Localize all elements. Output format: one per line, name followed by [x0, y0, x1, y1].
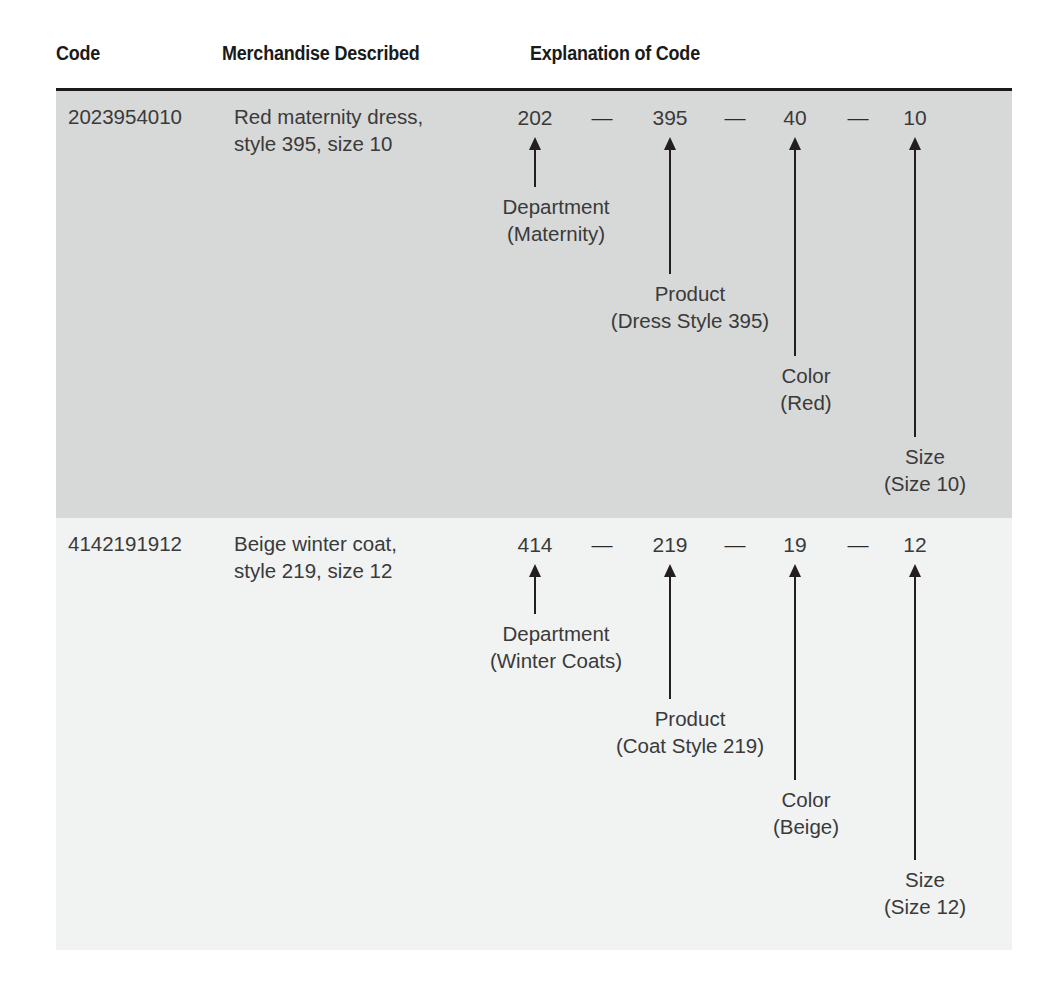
cell-merchandise-described: Red maternity dress, style 395, size 10 [234, 103, 423, 157]
callout-arrow-up-icon [909, 137, 922, 437]
callout-arrow-up-icon [789, 137, 802, 356]
segment-annotation-label: Product [611, 280, 769, 307]
callout-arrow-up-icon [664, 564, 677, 699]
segment-annotation: Color(Red) [780, 362, 831, 416]
segment-annotation-label: Product [616, 705, 764, 732]
segment-annotation-detail: (Maternity) [502, 220, 609, 247]
cell-code: 2023954010 [68, 103, 182, 130]
callout-arrow-up-icon [789, 564, 802, 780]
segment-annotation: Product(Coat Style 219) [616, 705, 764, 759]
segment-annotation-detail: (Size 10) [884, 470, 966, 497]
arrow-shaft [914, 572, 916, 860]
arrow-shaft [914, 145, 916, 437]
arrow-shaft [669, 572, 671, 699]
code-segment-separator: — [582, 530, 622, 560]
segment-annotation: Department(Winter Coats) [490, 620, 622, 674]
segment-annotation-detail: (Dress Style 395) [611, 307, 769, 334]
segment-annotation: Color(Beige) [773, 786, 839, 840]
segment-annotation: Size(Size 12) [884, 866, 966, 920]
segment-annotation-label: Size [884, 443, 966, 470]
table-header-row: Code Merchandise Described Explanation o… [56, 42, 1012, 80]
segment-annotation-label: Color [780, 362, 831, 389]
code-segment-value: 414 [495, 530, 575, 560]
code-segment-value: 19 [755, 530, 835, 560]
cell-merchandise-described: Beige winter coat, style 219, size 12 [234, 530, 397, 584]
code-segment-value: 202 [495, 103, 575, 133]
segment-annotation-label: Size [884, 866, 966, 893]
segment-annotation: Department(Maternity) [502, 193, 609, 247]
column-header-explanation-of-code: Explanation of Code [530, 42, 700, 65]
segment-annotation-detail: (Red) [780, 389, 831, 416]
code-explanation-figure: Code Merchandise Described Explanation o… [0, 0, 1051, 983]
column-header-code: Code [56, 42, 100, 65]
segment-annotation-detail: (Winter Coats) [490, 647, 622, 674]
arrow-shaft [534, 145, 536, 187]
segment-annotation-label: Department [490, 620, 622, 647]
code-segment-separator: — [715, 530, 755, 560]
arrow-shaft [669, 145, 671, 274]
arrow-shaft [794, 145, 796, 356]
callout-arrow-up-icon [529, 564, 542, 614]
code-segment-value: 395 [630, 103, 710, 133]
code-segment-separator: — [838, 530, 878, 560]
code-segment-separator: — [838, 103, 878, 133]
header-rule [56, 88, 1012, 91]
code-segment-separator: — [582, 103, 622, 133]
cell-code: 4142191912 [68, 530, 182, 557]
segment-annotation-detail: (Size 12) [884, 893, 966, 920]
code-segment-value: 10 [875, 103, 955, 133]
segment-annotation: Size(Size 10) [884, 443, 966, 497]
code-segment-value: 219 [630, 530, 710, 560]
arrow-shaft [794, 572, 796, 780]
segment-annotation-detail: (Beige) [773, 813, 839, 840]
segment-annotation-label: Color [773, 786, 839, 813]
segment-annotation-detail: (Coat Style 219) [616, 732, 764, 759]
callout-arrow-up-icon [664, 137, 677, 274]
segment-annotation-label: Department [502, 193, 609, 220]
callout-arrow-up-icon [909, 564, 922, 860]
column-header-merchandise-described: Merchandise Described [222, 42, 420, 65]
code-segment-value: 40 [755, 103, 835, 133]
code-segment-value: 12 [875, 530, 955, 560]
code-segment-separator: — [715, 103, 755, 133]
arrow-shaft [534, 572, 536, 614]
callout-arrow-up-icon [529, 137, 542, 187]
segment-annotation: Product(Dress Style 395) [611, 280, 769, 334]
